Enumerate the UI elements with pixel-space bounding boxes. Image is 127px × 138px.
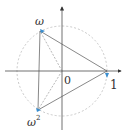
radius-omega-squared bbox=[38, 71, 62, 110]
radius-omega bbox=[40, 31, 62, 71]
marker-one bbox=[105, 73, 109, 78]
label-omega: ω bbox=[35, 15, 44, 28]
label-omega-squared: ω2 bbox=[27, 114, 40, 129]
label-one: 1 bbox=[110, 78, 118, 92]
equilateral-triangle bbox=[38, 31, 107, 110]
unit-circle-diagram: 0 1 ω ω2 bbox=[0, 0, 127, 138]
label-origin: 0 bbox=[64, 74, 71, 87]
